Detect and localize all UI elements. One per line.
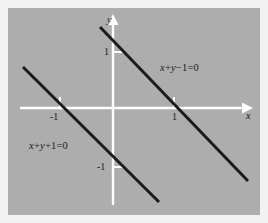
equation-label-lower-line: x+y+1=0 [29, 140, 68, 151]
equation-lower-rhs: 0 [63, 140, 68, 151]
y-tick-label-positive-one: 1 [104, 46, 109, 57]
y-axis-label: y [107, 14, 112, 25]
line-x-plus-y-minus-1 [100, 27, 248, 181]
x-tick-label-positive-one: 1 [172, 111, 177, 122]
equation-label-upper-line: x+y−1=0 [160, 62, 199, 73]
figure-container: x+y−1=0 x+y+1=0 y x 1 -1 -1 1 [0, 0, 268, 223]
y-tick-label-negative-one: -1 [97, 161, 105, 172]
x-tick-label-negative-one: -1 [50, 111, 58, 122]
plot-graphics [0, 0, 268, 223]
x-axis-label: x [246, 110, 251, 121]
equation-upper-rhs: 0 [194, 62, 199, 73]
line-x-plus-y-plus-1 [23, 67, 159, 202]
